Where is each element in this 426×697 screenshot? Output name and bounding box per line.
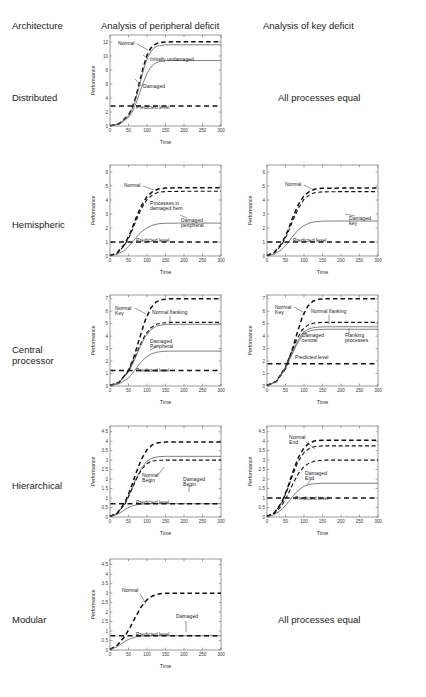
svg-text:50: 50 <box>283 519 289 524</box>
svg-text:150: 150 <box>162 388 170 393</box>
svg-text:7: 7 <box>105 296 108 301</box>
svg-text:300: 300 <box>217 128 225 133</box>
svg-text:100: 100 <box>300 519 308 524</box>
series-normal <box>267 188 378 255</box>
svg-text:4: 4 <box>262 334 265 339</box>
svg-text:4.5: 4.5 <box>102 562 109 567</box>
column-header-architecture: Architecture <box>12 20 63 31</box>
svg-text:0: 0 <box>262 384 265 389</box>
svg-text:0: 0 <box>266 519 269 524</box>
svg-text:1: 1 <box>105 496 108 501</box>
svg-text:1: 1 <box>262 371 265 376</box>
svg-text:300: 300 <box>374 258 382 263</box>
svg-text:250: 250 <box>356 519 364 524</box>
annotation-label: Normal <box>285 181 301 187</box>
svg-text:0: 0 <box>262 515 265 520</box>
annotation-label: End <box>305 475 314 481</box>
svg-text:150: 150 <box>319 388 327 393</box>
svg-text:0: 0 <box>105 648 108 653</box>
annotation-label: Begin <box>183 481 196 487</box>
svg-text:Performance: Performance <box>247 326 253 356</box>
svg-text:Performance: Performance <box>247 196 253 226</box>
svg-text:2.5: 2.5 <box>259 467 266 472</box>
svg-text:0: 0 <box>109 388 112 393</box>
svg-text:2: 2 <box>105 110 108 115</box>
svg-text:0: 0 <box>105 124 108 129</box>
series-normal <box>110 188 221 256</box>
svg-text:0.5: 0.5 <box>259 505 266 510</box>
svg-text:Time: Time <box>317 530 328 536</box>
svg-text:1.5: 1.5 <box>102 486 109 491</box>
annotation-label: damaged hem <box>150 205 183 211</box>
svg-text:Time: Time <box>317 399 328 405</box>
svg-text:4: 4 <box>105 96 108 101</box>
series-normal-begin <box>110 456 221 516</box>
svg-text:Performance: Performance <box>90 196 96 226</box>
svg-text:2: 2 <box>262 226 265 231</box>
annotation-label: Predicted level <box>295 354 328 360</box>
svg-text:1.5: 1.5 <box>259 486 266 491</box>
svg-text:1: 1 <box>105 240 108 245</box>
svg-text:6: 6 <box>262 170 265 175</box>
svg-text:3: 3 <box>105 458 108 463</box>
svg-text:100: 100 <box>143 388 151 393</box>
annotation-label: processes <box>345 337 369 343</box>
chart-hierarchical-key: 05010015020025030000.511.522.533.544.5Ti… <box>245 419 382 537</box>
series-normal <box>110 593 221 649</box>
series-damaged <box>110 61 221 126</box>
annotation-label: Predicted level <box>136 631 169 637</box>
series-normal-end <box>267 440 378 516</box>
svg-text:2: 2 <box>262 359 265 364</box>
series-normal-flanking-solid <box>110 324 221 385</box>
svg-text:5: 5 <box>105 184 108 189</box>
row-label-central-processor-line2: processor <box>12 355 54 366</box>
annotation-label: Damaged <box>176 613 198 619</box>
svg-text:6: 6 <box>105 82 108 87</box>
svg-text:200: 200 <box>180 128 188 133</box>
svg-text:0: 0 <box>109 258 112 263</box>
series-normal-end-secondary <box>267 446 378 517</box>
svg-text:0: 0 <box>109 652 112 657</box>
figure-sheet: Architecture Analysis of peripheral defi… <box>0 0 426 697</box>
svg-text:3.5: 3.5 <box>259 448 266 453</box>
svg-text:250: 250 <box>199 258 207 263</box>
annotation-label: Predicted level <box>136 367 169 373</box>
row-label-central-processor-line1: Central <box>12 344 43 355</box>
svg-text:Performance: Performance <box>90 326 96 356</box>
annotation-label: peripheral <box>181 222 204 228</box>
svg-text:Time: Time <box>160 530 171 536</box>
svg-text:300: 300 <box>217 258 225 263</box>
svg-text:3: 3 <box>105 591 108 596</box>
chart-central-peripheral: 05010015020025030001234567TimePerformanc… <box>88 288 225 406</box>
series-damaged <box>110 636 221 650</box>
series-normal-flanking <box>110 322 221 385</box>
svg-text:150: 150 <box>162 652 170 657</box>
annotation-label: Predicted level <box>295 495 328 501</box>
svg-text:1.5: 1.5 <box>102 619 109 624</box>
svg-text:Time: Time <box>160 399 171 405</box>
svg-text:12: 12 <box>103 40 109 45</box>
chart-hemispheric-peripheral: 0501001502002503000123456TimePerformance… <box>88 158 225 276</box>
svg-text:Time: Time <box>160 663 171 669</box>
svg-text:0.5: 0.5 <box>102 638 109 643</box>
svg-text:100: 100 <box>143 652 151 657</box>
annotation-label: Normal flanking <box>152 309 188 315</box>
svg-text:5: 5 <box>262 184 265 189</box>
svg-text:50: 50 <box>126 519 132 524</box>
annotation-label: Begin <box>142 477 155 483</box>
chart-distributed-peripheral: 050100150200250300024681012TimePerforman… <box>88 28 225 146</box>
svg-text:100: 100 <box>300 388 308 393</box>
svg-text:3: 3 <box>262 458 265 463</box>
svg-text:300: 300 <box>374 519 382 524</box>
svg-text:2: 2 <box>105 477 108 482</box>
svg-text:1: 1 <box>262 240 265 245</box>
svg-text:150: 150 <box>162 519 170 524</box>
svg-text:0.5: 0.5 <box>102 505 109 510</box>
svg-text:250: 250 <box>199 519 207 524</box>
svg-text:3: 3 <box>105 212 108 217</box>
svg-text:250: 250 <box>356 388 364 393</box>
svg-text:300: 300 <box>217 652 225 657</box>
annotation-label: Predicted level <box>136 104 169 110</box>
svg-text:Time: Time <box>317 269 328 275</box>
annotation-label: Normal flanking <box>311 308 347 314</box>
